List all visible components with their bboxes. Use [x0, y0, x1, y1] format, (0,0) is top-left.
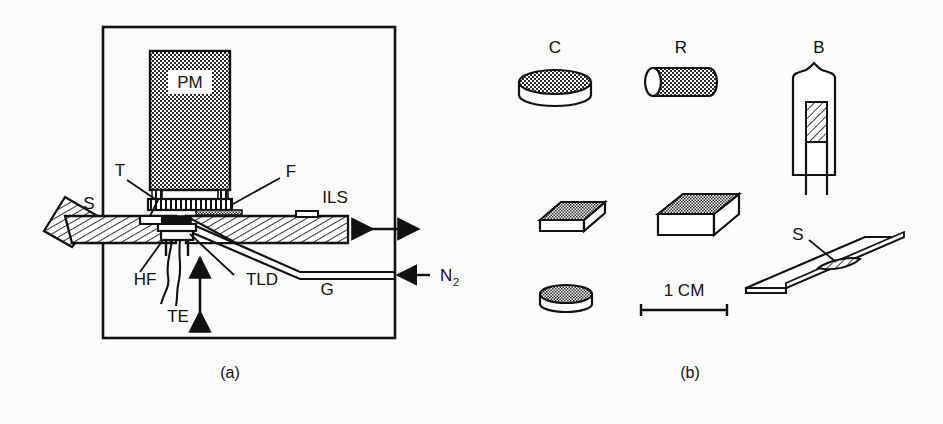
- slide-left-step: [140, 216, 162, 224]
- shape-bulb-b: [793, 63, 835, 195]
- heating-filament-block: [161, 231, 193, 240]
- shape-rod-r: [645, 68, 717, 96]
- label-tld: TLD: [246, 270, 278, 289]
- tld-sample: [163, 216, 191, 224]
- label-s: S: [83, 194, 94, 213]
- label-f: F: [286, 162, 296, 181]
- tube-foot-right: [218, 190, 228, 199]
- shape-disc-small: [540, 285, 592, 312]
- internal-light-source: [296, 211, 318, 217]
- label-t: T: [115, 161, 125, 180]
- bulb-element: [806, 102, 827, 142]
- label-n2-sub: 2: [453, 276, 459, 288]
- figure-background: [0, 0, 943, 424]
- optical-filter: [148, 199, 232, 210]
- label-g: G: [320, 280, 333, 299]
- figure-svg: PM: [0, 0, 943, 424]
- label-b: B: [813, 38, 824, 57]
- label-te: TE: [167, 307, 189, 326]
- pm-label: PM: [177, 73, 203, 92]
- caption-panel-b: (b): [680, 364, 700, 381]
- slide-dotted-strip: [196, 210, 242, 215]
- label-ils: ILS: [322, 188, 348, 207]
- scale-bar-label: 1 CM: [664, 281, 705, 300]
- label-c: C: [549, 38, 561, 57]
- label-r: R: [675, 38, 687, 57]
- figure-container: PM: [0, 0, 943, 424]
- label-n2-main: N: [440, 266, 452, 285]
- label-hf: HF: [134, 270, 157, 289]
- shape-disc-c: [519, 70, 591, 106]
- caption-panel-a: (a): [220, 364, 240, 381]
- label-slide-s: S: [792, 225, 803, 244]
